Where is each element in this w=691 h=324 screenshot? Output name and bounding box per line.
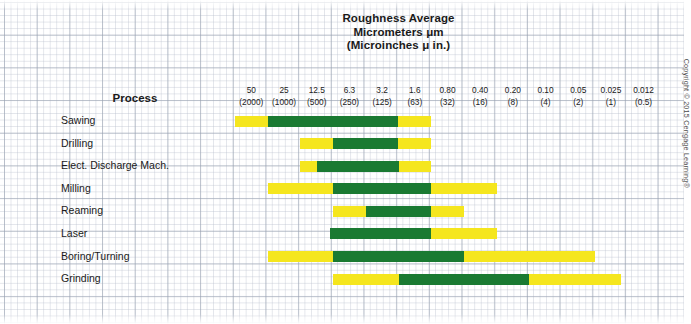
column-header-12: 0.012(0.5) (627, 85, 660, 111)
bar-typical-range-5 (330, 228, 431, 239)
process-label-7: Grinding (61, 272, 101, 284)
column-header-micrometers: 50 (235, 85, 268, 97)
column-header-micrometers: 0.012 (627, 85, 660, 97)
chart-title-line-1: Roughness Average (235, 12, 562, 26)
bar-typical-range-4 (366, 206, 431, 217)
column-header-microinches: (32) (431, 97, 464, 109)
column-header-3: 6.3(250) (333, 85, 366, 111)
bar-typical-range-0 (268, 116, 399, 127)
column-header-microinches: (8) (497, 97, 530, 109)
chart-row: Milling (0, 178, 684, 201)
process-label-6: Boring/Turning (61, 250, 129, 262)
column-header-micrometers: 0.10 (529, 85, 562, 97)
column-header-5: 1.6(63) (398, 85, 431, 111)
process-label-5: Laser (61, 227, 87, 239)
column-header-micrometers: 12.5 (300, 85, 333, 97)
process-label-1: Drilling (61, 137, 93, 149)
column-header-1: 25(1000) (268, 85, 301, 111)
chart-row: Laser (0, 223, 684, 246)
column-header-microinches: (63) (398, 97, 431, 109)
chart-rows: SawingDrillingElect. Discharge Mach.Mill… (0, 110, 684, 291)
column-header-micrometers: 0.025 (595, 85, 628, 97)
process-label-0: Sawing (61, 114, 95, 126)
column-header-micrometers: 1.6 (398, 85, 431, 97)
column-header-10: 0.05(2) (562, 85, 595, 111)
chart-row: Sawing (0, 110, 684, 133)
bar-typical-range-2 (317, 161, 399, 172)
column-header-microinches: (2000) (235, 97, 268, 109)
process-label-2: Elect. Discharge Mach. (61, 159, 169, 171)
process-label-3: Milling (61, 182, 91, 194)
chart-title: Roughness Average Micrometers μm (Microi… (235, 12, 562, 53)
column-header-microinches: (4) (529, 97, 562, 109)
column-header-9: 0.10(4) (529, 85, 562, 111)
bar-typical-range-3 (333, 183, 431, 194)
column-header-microinches: (0.5) (627, 97, 660, 109)
bar-typical-range-6 (333, 251, 464, 262)
column-header-micrometers: 3.2 (366, 85, 399, 97)
bar-typical-range-7 (399, 274, 530, 285)
column-header-microinches: (16) (464, 97, 497, 109)
column-header-8: 0.20(8) (497, 85, 530, 111)
bar-typical-range-1 (333, 138, 398, 149)
column-header-micrometers: 0.05 (562, 85, 595, 97)
chart-row: Reaming (0, 200, 684, 223)
axis-column-headers: 50(2000)25(1000)12.5(500)6.3(250)3.2(125… (235, 85, 660, 111)
bar-less-frequent-5 (431, 228, 496, 239)
chart-row: Elect. Discharge Mach. (0, 155, 684, 178)
chart-row: Grinding (0, 268, 684, 291)
chart-title-line-3: (Microinches μ in.) (235, 39, 562, 53)
column-header-7: 0.40(16) (464, 85, 497, 111)
column-header-microinches: (1000) (268, 97, 301, 109)
column-header-microinches: (125) (366, 97, 399, 109)
column-header-4: 3.2(125) (366, 85, 399, 111)
column-header-microinches: (1) (595, 97, 628, 109)
column-header-11: 0.025(1) (595, 85, 628, 111)
process-label-4: Reaming (61, 204, 103, 216)
column-header-microinches: (250) (333, 97, 366, 109)
chart-title-line-2: Micrometers μm (235, 26, 562, 40)
column-header-2: 12.5(500) (300, 85, 333, 111)
column-header-0: 50(2000) (235, 85, 268, 111)
copyright-notice: Copyright © 2015 Cengage Learning® (682, 59, 691, 188)
chart-row: Drilling (0, 133, 684, 156)
chart-row: Boring/Turning (0, 246, 684, 269)
column-header-micrometers: 0.20 (497, 85, 530, 97)
column-header-micrometers: 6.3 (333, 85, 366, 97)
process-column-header: Process (60, 92, 210, 104)
column-header-microinches: (500) (300, 97, 333, 109)
column-header-micrometers: 0.40 (464, 85, 497, 97)
column-header-micrometers: 25 (268, 85, 301, 97)
column-header-micrometers: 0.80 (431, 85, 464, 97)
column-header-microinches: (2) (562, 97, 595, 109)
column-header-6: 0.80(32) (431, 85, 464, 111)
